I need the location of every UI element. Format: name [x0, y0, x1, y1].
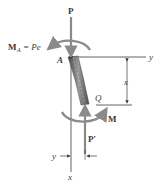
label-axis-x-bottom: x: [67, 172, 72, 182]
label-force-p: P: [68, 6, 74, 16]
label-moment-ma-eq: = Pe: [23, 42, 41, 52]
moment-m-arrow: [62, 112, 104, 122]
eccentric-column-diagram: P M A = Pe A Q y x M P′ y x: [0, 0, 162, 183]
label-axis-y-bottom: y: [51, 151, 56, 161]
label-moment-m: M: [108, 114, 117, 124]
label-moment-ma-sub: A: [16, 47, 21, 53]
label-point-a: A: [56, 55, 63, 65]
label-dim-x: x: [123, 77, 128, 87]
label-axis-y-top: y: [148, 52, 153, 62]
point-a-dot: [69, 55, 72, 58]
label-moment-ma: M: [8, 42, 17, 52]
label-force-p-prime: P′: [88, 134, 96, 144]
label-point-q: Q: [95, 93, 102, 103]
